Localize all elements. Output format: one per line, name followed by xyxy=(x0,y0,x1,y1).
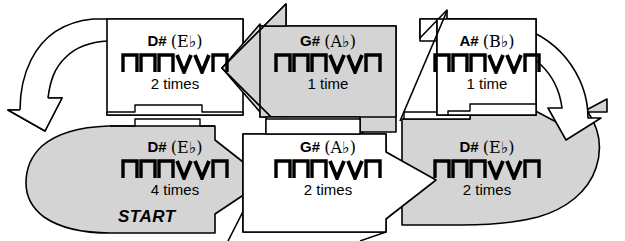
diagram-shapes xyxy=(0,0,625,241)
shape-bottom-left-arrow-right xyxy=(26,126,266,233)
shape-bottom-middle-top-tab xyxy=(266,119,360,134)
shape-top-right-box xyxy=(437,19,536,115)
chord-progression-diagram: D# (E♭) 2 times G# (A♭) xyxy=(0,0,625,241)
shape-bottom-left-top-notch xyxy=(110,119,215,126)
shape-bottom-middle-diagonal xyxy=(360,232,386,241)
